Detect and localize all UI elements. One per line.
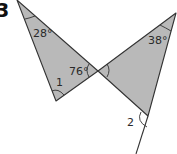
question-number: 3 xyxy=(0,0,9,21)
extension-line xyxy=(136,116,148,154)
right-triangle xyxy=(98,13,176,116)
geometry-diagram: 3 28° 38° 76° 1 2 xyxy=(0,0,177,154)
angle-label-28: 28° xyxy=(33,27,53,40)
angle-label-76: 76° xyxy=(69,65,89,78)
angle-label-1: 1 xyxy=(56,76,63,89)
angle-label-38: 38° xyxy=(148,34,168,47)
angle-label-2: 2 xyxy=(127,116,134,129)
